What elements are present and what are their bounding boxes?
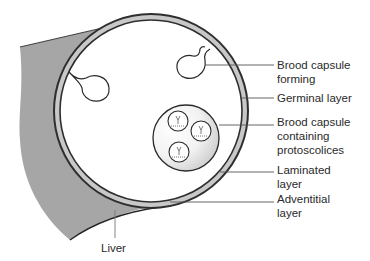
label-brood-capsule-forming: Brood capsule forming xyxy=(277,59,354,85)
laminated-layer xyxy=(60,20,242,202)
label-laminated-layer: Laminated layer xyxy=(277,164,334,190)
hydatid-cyst-diagram: Brood capsule forming Germinal layer Bro… xyxy=(0,0,370,261)
label-adventitial-layer: Adventitial layer xyxy=(277,193,333,219)
label-brood-capsule-protoscolices: Brood capsule containing protoscolices xyxy=(277,116,354,156)
protoscolex xyxy=(169,142,189,162)
protoscolex xyxy=(191,121,211,141)
label-germinal-layer: Germinal layer xyxy=(277,92,352,104)
label-liver: Liver xyxy=(101,242,126,254)
protoscolex xyxy=(168,111,188,131)
